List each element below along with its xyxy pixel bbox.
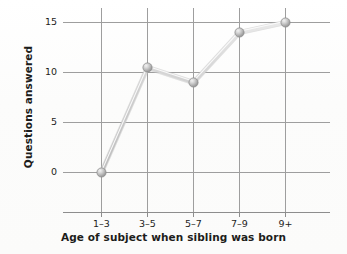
x-tick-label-5: 9+ xyxy=(262,218,310,229)
data-point-marker xyxy=(281,18,290,27)
y-tick-label-5: 5 xyxy=(31,116,57,127)
y-tick-label-15: 15 xyxy=(31,16,57,27)
x-tick-label-4: 7–9 xyxy=(216,218,264,229)
x-tick-label-2: 3–5 xyxy=(124,218,172,229)
y-axis-title: Questions answered xyxy=(22,32,34,182)
data-point-marker xyxy=(235,28,244,37)
data-point-marker xyxy=(189,78,198,87)
horizontal-gridlines xyxy=(63,23,330,173)
y-tick-label-0: 0 xyxy=(31,166,57,177)
data-point-marker xyxy=(97,168,106,177)
x-axis-title: Age of subject when sibling was born xyxy=(0,231,347,243)
y-tick-label-10: 10 xyxy=(31,66,57,77)
chart-figure: 15 10 5 0 1–3 3–5 5–7 7–9 9+ Age of subj… xyxy=(0,0,347,254)
x-tick-label-1: 1–3 xyxy=(78,218,126,229)
x-tick-label-3: 5–7 xyxy=(170,218,218,229)
data-point-marker xyxy=(143,63,152,72)
x-tick-marks xyxy=(102,213,286,218)
line-chart-plot xyxy=(0,0,347,254)
